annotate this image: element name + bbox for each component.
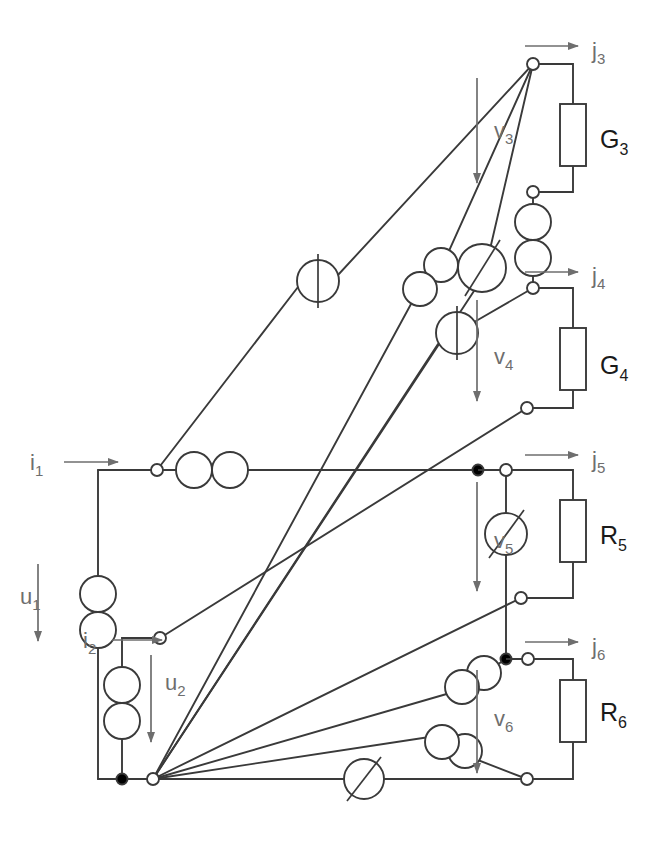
svg-text:j4: j4 xyxy=(591,263,605,292)
label-v4-sub: 4 xyxy=(505,356,513,373)
source-variable-a[interactable] xyxy=(458,240,506,296)
label-j5-sub: 5 xyxy=(597,459,605,476)
node-fix-layer xyxy=(478,470,522,659)
wire-r6-bottom xyxy=(527,742,573,779)
label-v6-sub: 6 xyxy=(505,718,513,735)
label-v5-sub: 5 xyxy=(505,540,513,557)
wire-diag-top-to-hub-twin-b xyxy=(153,293,417,779)
wire-g4-top xyxy=(533,288,573,328)
label-v3-sub: 3 xyxy=(505,130,513,147)
source-variable-bottom[interactable] xyxy=(344,757,384,801)
label-R5-main: R xyxy=(600,521,618,549)
wire-diag-top-to-i1-a xyxy=(338,64,533,275)
label-j4-sub: 4 xyxy=(597,275,605,292)
svg-text:v6: v6 xyxy=(494,706,513,735)
schematic-svg: i1 u1 i2 u2 j3 v3 G3 j4 v4 G4 j5 xyxy=(0,0,655,846)
wire-g3-top xyxy=(533,64,573,104)
label-R6-main: R xyxy=(600,698,618,726)
svg-text:G3: G3 xyxy=(600,125,628,158)
label-u1-sub: 1 xyxy=(32,596,40,613)
label-i2-sub: 2 xyxy=(88,640,96,657)
node-g3-bottom[interactable] xyxy=(527,186,539,198)
wire-r5-top xyxy=(506,470,573,500)
label-R6-sub: 6 xyxy=(618,714,627,731)
source-vccs-a[interactable] xyxy=(297,254,339,308)
label-G3-sub: 3 xyxy=(619,141,628,158)
source-pair-g34[interactable] xyxy=(515,204,551,276)
label-G4-main: G xyxy=(600,351,619,379)
svg-text:u2: u2 xyxy=(165,670,186,699)
svg-text:j3: j3 xyxy=(591,38,605,67)
node-i1-left[interactable] xyxy=(151,464,163,476)
label-u1-main: u xyxy=(20,584,32,609)
node-hub-bottom[interactable] xyxy=(147,773,159,785)
label-R5-sub: 5 xyxy=(618,537,627,554)
label-u2-sub: 2 xyxy=(177,682,185,699)
node-g4-bottom[interactable] xyxy=(521,402,533,414)
source-vccs-b[interactable] xyxy=(436,306,478,360)
wire-r6-top xyxy=(506,659,573,680)
label-i1-sub: 1 xyxy=(35,462,43,479)
resistor-layer xyxy=(560,104,586,742)
node-u2-bottom[interactable] xyxy=(117,774,128,785)
node-j5-top[interactable] xyxy=(500,464,512,476)
circuit-diagram-canvas: i1 u1 i2 u2 j3 v3 G3 j4 v4 G4 j5 xyxy=(0,0,655,846)
node-i2-left[interactable] xyxy=(154,632,166,644)
wire-r5-bottom xyxy=(521,562,573,598)
node-j4-top[interactable] xyxy=(527,282,539,294)
node-r6-bottom[interactable] xyxy=(521,773,533,785)
node-j3-top[interactable] xyxy=(527,58,539,70)
resistor-R6[interactable] xyxy=(560,680,586,742)
wire-diag-g4bot-to-i2 xyxy=(160,408,527,638)
wire-diag-j4-to-hub-b xyxy=(153,344,438,779)
source-pair-i1[interactable] xyxy=(176,452,248,488)
wire-diag-j4-to-hub-a xyxy=(476,288,533,321)
label-v6-main: v xyxy=(494,706,505,731)
svg-text:R5: R5 xyxy=(600,521,627,554)
wire-g4-bottom xyxy=(527,390,573,408)
source-pair-mid[interactable] xyxy=(403,248,458,306)
label-j6-sub: 6 xyxy=(597,646,605,663)
node-r5-bottom[interactable] xyxy=(515,592,527,604)
source-pair-u2[interactable] xyxy=(104,667,140,739)
resistor-G3[interactable] xyxy=(560,104,586,166)
svg-text:j6: j6 xyxy=(591,634,605,663)
svg-text:i1: i1 xyxy=(30,450,43,479)
resistor-R5[interactable] xyxy=(560,500,586,562)
source-pair-lower[interactable] xyxy=(445,656,501,704)
svg-text:v4: v4 xyxy=(494,344,513,373)
wire-diag-top-to-i1-b xyxy=(157,287,298,470)
resistor-G4[interactable] xyxy=(560,328,586,390)
label-v3-main: v xyxy=(494,118,505,143)
svg-text:R6: R6 xyxy=(600,698,627,731)
label-G3-main: G xyxy=(600,125,619,153)
svg-text:j5: j5 xyxy=(591,447,605,476)
label-G4-sub: 4 xyxy=(619,367,628,384)
node-j6-top[interactable] xyxy=(522,653,534,665)
label-j3-sub: 3 xyxy=(597,50,605,67)
svg-text:G4: G4 xyxy=(600,351,628,384)
svg-text:v3: v3 xyxy=(494,118,513,147)
label-v5-main: v xyxy=(494,528,505,553)
source-pair-lowest[interactable] xyxy=(425,725,482,768)
wire-g3-bottom xyxy=(533,166,573,192)
label-u2-main: u xyxy=(165,670,177,695)
label-v4-main: v xyxy=(494,344,505,369)
